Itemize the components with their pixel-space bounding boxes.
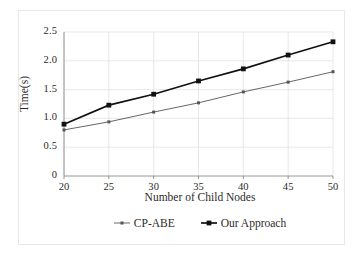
legend-entry: Our Approach — [201, 217, 286, 229]
data-point-marker — [286, 53, 291, 58]
legend-marker-icon — [201, 218, 217, 228]
y-tick-label: 2.0 — [31, 54, 57, 65]
data-point-marker — [242, 90, 245, 93]
chart-figure: 00.51.01.52.02.5 20253035404550 Time(s) … — [0, 0, 363, 263]
data-point-marker — [151, 92, 156, 97]
y-tick-label: 1.5 — [31, 83, 57, 94]
data-point-marker — [287, 81, 290, 84]
data-point-marker — [241, 66, 246, 71]
legend-label: Our Approach — [221, 217, 286, 229]
data-point-marker — [196, 79, 201, 84]
data-point-marker — [63, 128, 66, 131]
data-point-marker — [197, 101, 200, 104]
data-point-marker — [62, 122, 67, 127]
legend-entry: CP-ABE — [114, 217, 175, 229]
y-tick-label: 1.0 — [31, 111, 57, 122]
y-axis-title: Time(s) — [18, 54, 30, 134]
data-point-marker — [331, 39, 336, 44]
y-tick-label: 0 — [31, 169, 57, 180]
legend-label: CP-ABE — [134, 217, 175, 229]
chart-legend: CP-ABEOur Approach — [55, 217, 345, 229]
x-axis-title: Number of Child Nodes — [55, 191, 345, 203]
data-point-marker — [152, 111, 155, 114]
data-point-marker — [106, 103, 111, 108]
y-tick-label: 2.5 — [31, 25, 57, 36]
y-tick-label: 0.5 — [31, 140, 57, 151]
data-point-marker — [107, 120, 110, 123]
legend-marker-icon — [114, 218, 130, 228]
data-point-marker — [332, 70, 335, 73]
